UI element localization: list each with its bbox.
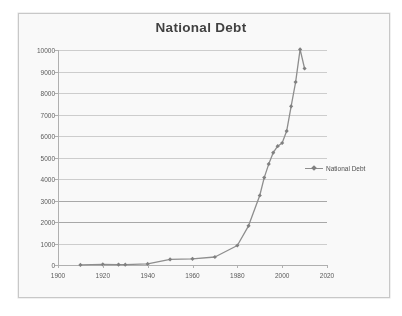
gridline-9000 bbox=[58, 72, 327, 73]
x-tick-mark-1920 bbox=[103, 265, 104, 268]
x-tick-label-1980: 1980 bbox=[230, 272, 244, 279]
gridline-1000 bbox=[58, 244, 327, 245]
x-tick-label-2020: 2020 bbox=[320, 272, 334, 279]
y-tick-mark-6000 bbox=[55, 136, 58, 137]
y-axis-line bbox=[58, 50, 59, 266]
gridline-5000 bbox=[58, 158, 327, 159]
y-tick-label-4000: 4000 bbox=[41, 176, 55, 183]
x-tick-mark-1940 bbox=[148, 265, 149, 268]
x-tick-mark-1960 bbox=[193, 265, 194, 268]
scanned-chart-image: National Debt 01000200030004000500060007… bbox=[0, 0, 402, 316]
gridline-7000 bbox=[58, 115, 327, 116]
gridline-10000 bbox=[58, 50, 327, 51]
y-tick-label-10000: 10000 bbox=[37, 47, 55, 54]
y-tick-label-9000: 9000 bbox=[41, 68, 55, 75]
y-tick-label-2000: 2000 bbox=[41, 219, 55, 226]
y-tick-mark-9000 bbox=[55, 72, 58, 73]
chart-title: National Debt bbox=[0, 20, 402, 35]
y-axis-tick-labels: 0100020003000400050006000700080009000100… bbox=[22, 0, 55, 316]
y-tick-mark-5000 bbox=[55, 158, 58, 159]
gridline-4000 bbox=[58, 179, 327, 180]
gridline-8000 bbox=[58, 93, 327, 94]
x-tick-mark-1900 bbox=[58, 265, 59, 268]
chart-legend: National Debt bbox=[305, 165, 365, 172]
gridline-2000 bbox=[58, 222, 327, 223]
y-tick-mark-3000 bbox=[55, 201, 58, 202]
y-tick-label-7000: 7000 bbox=[41, 111, 55, 118]
x-tick-label-1940: 1940 bbox=[140, 272, 154, 279]
gridline-6000 bbox=[58, 136, 327, 137]
y-tick-label-6000: 6000 bbox=[41, 133, 55, 140]
x-tick-mark-1980 bbox=[237, 265, 238, 268]
x-tick-label-2000: 2000 bbox=[275, 272, 289, 279]
legend-marker-icon bbox=[305, 165, 323, 172]
plot-area bbox=[58, 50, 327, 265]
x-tick-label-1960: 1960 bbox=[185, 272, 199, 279]
y-tick-label-8000: 8000 bbox=[41, 90, 55, 97]
x-tick-mark-2000 bbox=[282, 265, 283, 268]
x-tick-label-1920: 1920 bbox=[96, 272, 110, 279]
y-tick-label-5000: 5000 bbox=[41, 154, 55, 161]
y-tick-mark-10000 bbox=[55, 50, 58, 51]
x-axis-tick-labels: 1900192019401960198020002020 bbox=[0, 272, 402, 286]
y-tick-mark-8000 bbox=[55, 93, 58, 94]
y-tick-label-1000: 1000 bbox=[41, 240, 55, 247]
y-tick-mark-7000 bbox=[55, 115, 58, 116]
y-tick-mark-1000 bbox=[55, 244, 58, 245]
gridline-3000 bbox=[58, 201, 327, 202]
y-tick-mark-4000 bbox=[55, 179, 58, 180]
y-tick-mark-2000 bbox=[55, 222, 58, 223]
x-tick-mark-2020 bbox=[327, 265, 328, 268]
legend-label-national-debt: National Debt bbox=[325, 165, 365, 172]
y-tick-label-3000: 3000 bbox=[41, 197, 55, 204]
x-tick-label-1900: 1900 bbox=[51, 272, 65, 279]
